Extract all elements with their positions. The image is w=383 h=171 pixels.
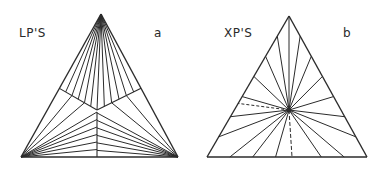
panel-b-ternary [207,16,367,157]
ternary-diagrams [0,0,383,171]
panel-a-ternary [21,14,178,157]
